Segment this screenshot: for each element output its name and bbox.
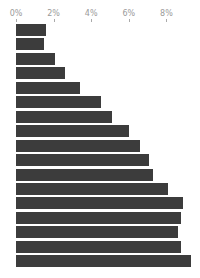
horizontal-bar-chart: 0%2%4%6%8% [0,0,200,278]
bar [16,67,65,79]
bar [16,241,181,253]
bar [16,169,153,181]
x-tick-label: 4% [85,9,98,18]
x-tick-mark [166,19,167,22]
bar [16,212,181,224]
bar [16,38,44,50]
bar [16,255,191,267]
x-tick-label: 0% [10,9,23,18]
x-tick-mark [54,19,55,22]
x-tick-mark [129,19,130,22]
x-tick-mark [16,19,17,22]
bar [16,183,168,195]
x-tick-mark [91,19,92,22]
bar [16,197,183,209]
bar [16,125,129,137]
bar [16,53,55,65]
x-tick-label: 6% [122,9,135,18]
bar [16,111,112,123]
bar [16,140,140,152]
bar [16,226,178,238]
bar [16,24,46,36]
bar [16,82,80,94]
x-tick-label: 2% [47,9,60,18]
bar [16,154,149,166]
x-tick-label: 8% [160,9,173,18]
bar [16,96,101,108]
